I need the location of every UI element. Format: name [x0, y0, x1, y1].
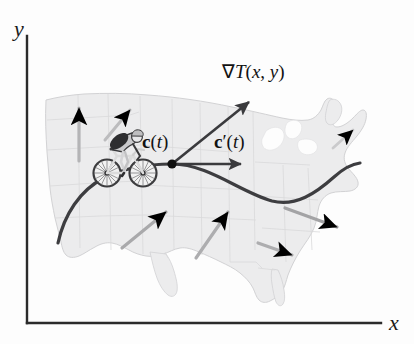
- map-united-states: [46, 93, 367, 305]
- point-label-c-of-t: c(t): [142, 132, 168, 151]
- y-axis-label: y: [14, 18, 24, 40]
- figure-canvas: [0, 0, 414, 344]
- gradient-vector-label: ∇T(x, y): [222, 62, 285, 81]
- velocity-vector-label: c′(t): [214, 132, 245, 151]
- vector-calculus-figure: y x ∇T(x, y) c(t) c′(t): [0, 0, 414, 344]
- point-marker-c-of-t: [167, 159, 176, 168]
- x-axis-label: x: [389, 312, 399, 334]
